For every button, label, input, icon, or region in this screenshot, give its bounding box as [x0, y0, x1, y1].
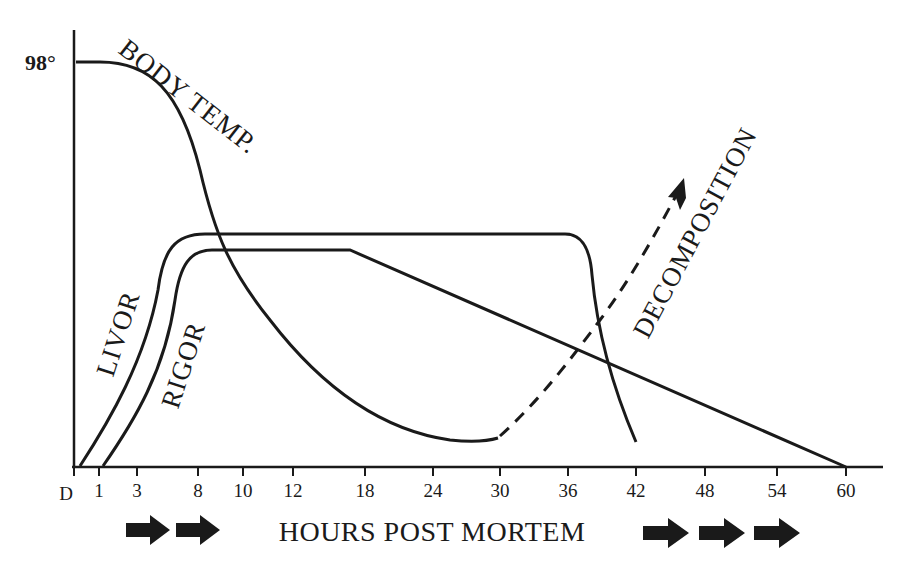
x-tick-label: 8 — [193, 480, 203, 501]
arrow-icon-group-right — [643, 518, 800, 548]
x-tick-label: 3 — [132, 480, 142, 501]
x-tick-label: 30 — [491, 480, 510, 501]
x-tick-label: 60 — [837, 480, 856, 501]
x-tick-label: 12 — [284, 480, 303, 501]
x-ticks — [74, 467, 846, 476]
x-tick-label: 24 — [424, 480, 444, 501]
x-tick-label: 54 — [768, 480, 788, 501]
x-axis-title: HOURS POST MORTEM — [279, 516, 586, 547]
body-temp-label: BODY TEMP. — [113, 33, 263, 160]
x-tick-label: 36 — [559, 480, 578, 501]
decomposition-arrowhead-icon — [668, 178, 686, 210]
rigor-curve — [103, 250, 846, 467]
right-arrow-icon — [699, 518, 745, 548]
x-tick-label: 1 — [94, 480, 104, 501]
x-tick-label: 10 — [234, 480, 253, 501]
decomposition-label: DECOMPOSITION — [627, 123, 763, 343]
x-tick-label: 48 — [696, 480, 715, 501]
rigor-label: RIGOR — [155, 318, 211, 412]
x-tick-label: D — [59, 483, 73, 504]
x-tick-label: 18 — [356, 480, 375, 501]
x-tick-labels: D 1 3 8 10 12 18 24 30 36 42 48 54 60 — [59, 480, 855, 504]
postmortem-chart: 98° D 1 3 8 10 12 18 24 30 36 42 48 54 6… — [0, 0, 917, 584]
right-arrow-icon — [643, 518, 689, 548]
x-tick-label: 42 — [627, 480, 646, 501]
arrow-icon-group-left — [126, 515, 220, 545]
right-arrow-icon — [126, 515, 170, 545]
right-arrow-icon — [176, 515, 220, 545]
body-temp-curve — [76, 62, 498, 441]
y-tick-98: 98° — [25, 50, 56, 75]
right-arrow-icon — [754, 518, 800, 548]
livor-label: LIVOR — [90, 287, 146, 379]
